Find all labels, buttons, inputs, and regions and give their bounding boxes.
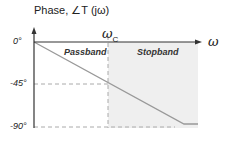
passband-label: Passband — [64, 47, 107, 57]
y-axis-label: Phase, ∠T (jω) — [34, 4, 109, 17]
phase-plot — [0, 0, 226, 144]
cutoff-label: ωC — [102, 26, 118, 44]
tick-0: 0° — [13, 36, 22, 46]
y-axis-arrow-icon — [32, 27, 37, 34]
x-axis-arrow-icon — [195, 40, 202, 45]
x-axis-label: ω — [208, 34, 219, 49]
tick-minus90: -90° — [10, 121, 27, 131]
tick-minus45: -45° — [10, 78, 27, 88]
stopband-label: Stopband — [137, 47, 179, 57]
